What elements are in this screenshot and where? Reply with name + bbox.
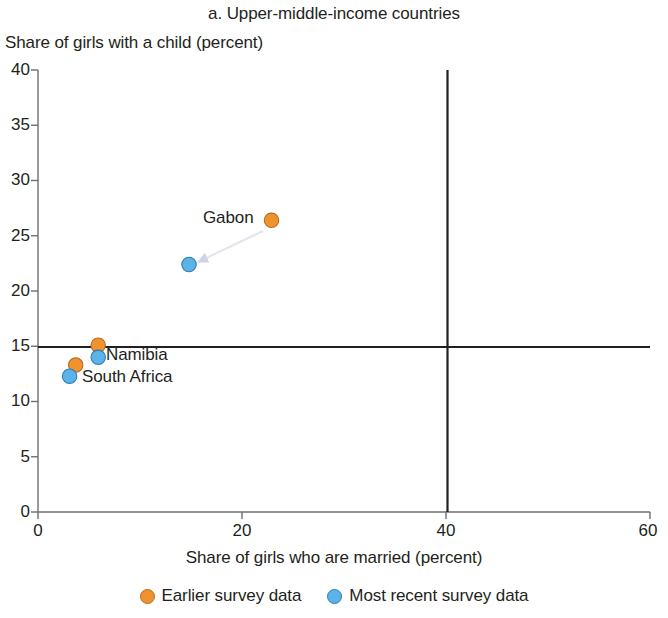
data-point-earlier-gabon (264, 213, 278, 227)
chart-figure: a. Upper-middle-income countries Share o… (0, 0, 668, 618)
y-tick-label-15: 15 (0, 336, 30, 356)
y-tick-label-5: 5 (0, 447, 30, 467)
y-tick-label-35: 35 (0, 115, 30, 135)
legend-swatch-earlier-icon (140, 589, 155, 604)
y-tick-label-25: 25 (0, 226, 30, 246)
y-tick-label-30: 30 (0, 170, 30, 190)
legend-label-earlier: Earlier survey data (162, 586, 302, 606)
x-axis-title: Share of girls who are married (percent) (0, 548, 668, 568)
x-tick-label-20: 20 (222, 521, 262, 541)
x-tick-label-60: 60 (628, 521, 668, 541)
x-tick-label-0: 0 (18, 521, 58, 541)
legend-item-earlier: Earlier survey data (140, 586, 302, 606)
y-tick-label-40: 40 (0, 60, 30, 80)
legend-item-recent: Most recent survey data (327, 586, 528, 606)
x-tick-label-40: 40 (426, 521, 466, 541)
connector-gabon (198, 231, 263, 262)
data-point-recent-gabon (182, 257, 196, 271)
y-tick-label-0: 0 (0, 502, 30, 522)
data-point-recent-south-africa (62, 369, 76, 383)
legend-label-recent: Most recent survey data (349, 586, 528, 606)
data-label-namibia: Namibia (106, 345, 168, 365)
plot-area (0, 0, 668, 618)
y-tick-label-10: 10 (0, 391, 30, 411)
chart-legend: Earlier survey data Most recent survey d… (0, 586, 668, 606)
data-label-gabon: Gabon (203, 208, 254, 228)
data-point-recent-namibia (91, 350, 105, 364)
data-label-south-africa: South Africa (82, 367, 172, 387)
legend-swatch-recent-icon (327, 589, 342, 604)
y-tick-label-20: 20 (0, 281, 30, 301)
